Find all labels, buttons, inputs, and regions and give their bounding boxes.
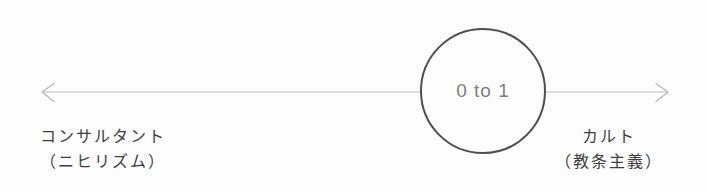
left-pole-label: コンサルタント （ニヒリズム） <box>40 124 166 174</box>
right-pole-label: カルト （教条主義） <box>548 124 670 174</box>
left-pole-title: コンサルタント <box>40 124 166 149</box>
right-pole-subtitle: （教条主義） <box>548 149 670 174</box>
center-node-label: 0 to 1 <box>456 80 510 102</box>
left-pole-subtitle: （ニヒリズム） <box>40 149 166 174</box>
right-pole-title: カルト <box>548 124 670 149</box>
center-node: 0 to 1 <box>420 28 546 154</box>
diagram-canvas: 0 to 1 コンサルタント （ニヒリズム） カルト （教条主義） <box>0 0 707 192</box>
